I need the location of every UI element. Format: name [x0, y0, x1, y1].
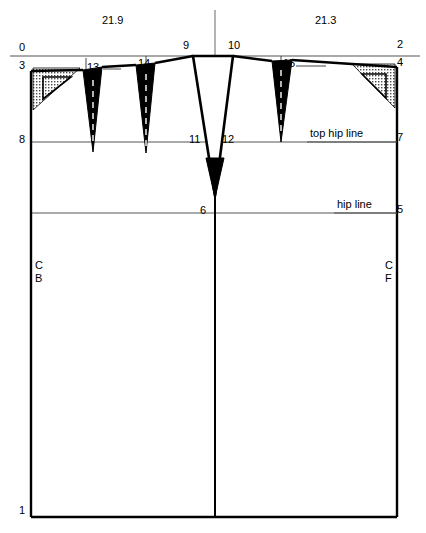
waist-seg-d13-to-d14	[102, 65, 136, 67]
point-label-4: 4	[397, 57, 403, 68]
point-label-1: 1	[19, 505, 25, 516]
hip-line-label: hip line	[337, 199, 372, 210]
point-label-11: 11	[189, 134, 200, 145]
waist-seg-d14-to-9	[155, 56, 193, 63]
waist-seg-3-to-d13	[31, 70, 83, 71]
point-label-0: 0	[19, 42, 25, 53]
point-label-3: 3	[19, 60, 25, 71]
dimension-label-left: 21.9	[102, 15, 123, 26]
point-label-7: 7	[397, 132, 403, 143]
dart-label-14: 14	[138, 58, 150, 69]
pattern-drawing-canvas	[0, 0, 426, 533]
centre-front-label-line2: F	[385, 272, 392, 284]
point-label-8: 8	[19, 134, 25, 145]
dart-label-13: 13	[87, 62, 99, 73]
point-label-5: 5	[397, 204, 403, 215]
centre-back-label-line2: B	[35, 272, 42, 284]
pattern-diagram-page: 21.9 21.3 top hip line hip line C B C F …	[0, 0, 426, 533]
point-label-6: 6	[200, 205, 206, 216]
point-label-12: 12	[222, 134, 234, 145]
point-label-10: 10	[228, 40, 240, 51]
dart-15-wedge	[272, 60, 292, 142]
top-hip-line-label: top hip line	[310, 128, 363, 139]
dimension-label-right: 21.3	[315, 15, 336, 26]
waist-seg-10-to-d15	[233, 56, 272, 61]
dart-label-15: 15	[283, 58, 295, 69]
point-label-2: 2	[397, 39, 403, 50]
point-label-9: 9	[183, 40, 189, 51]
centre-front-label-line1: C	[385, 259, 393, 271]
darts	[83, 56, 292, 198]
centre-back-label-line1: C	[35, 259, 43, 271]
centre-dart-apex-solid	[206, 158, 224, 198]
